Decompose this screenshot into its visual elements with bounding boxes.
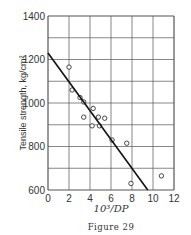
data-point: [91, 106, 95, 110]
chart: 024681012600800100012001400 Tensile stre…: [0, 0, 191, 235]
data-point: [96, 115, 100, 119]
fit-line: [48, 53, 148, 190]
y-tick-label: 1400: [23, 11, 46, 22]
data-point: [67, 65, 71, 69]
x-tick-label: 8: [129, 193, 135, 204]
data-point: [159, 174, 163, 178]
tick-labels: 024681012600800100012001400: [23, 11, 180, 205]
data-marks: [48, 53, 164, 190]
data-point: [90, 124, 94, 128]
data-point: [129, 181, 133, 185]
x-axis-label: 10³/DP: [94, 203, 129, 214]
x-tick-label: 0: [45, 193, 51, 204]
y-tick-label: 800: [28, 141, 45, 152]
data-point: [82, 115, 86, 119]
x-tick-label: 10: [147, 193, 159, 204]
data-point: [125, 141, 129, 145]
x-tick-label: 4: [87, 193, 93, 204]
x-tick-label: 12: [168, 193, 180, 204]
figure-caption: Figure 29: [88, 222, 135, 232]
y-axis-label: Tensile strength, kg/cm²: [18, 55, 28, 150]
x-tick-label: 2: [66, 193, 72, 204]
data-point: [103, 116, 107, 120]
y-tick-label: 600: [28, 185, 45, 196]
grid: [48, 16, 174, 190]
